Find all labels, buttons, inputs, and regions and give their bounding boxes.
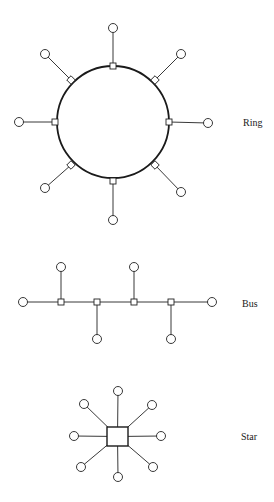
star-station-node-icon <box>148 401 157 410</box>
star-station-node-icon <box>70 432 79 441</box>
star-topology <box>70 387 166 482</box>
bus-end-node-icon <box>19 298 28 307</box>
star-hub-icon <box>107 427 128 446</box>
bus-label: Bus <box>242 298 258 309</box>
ring-tap-icon <box>110 178 116 184</box>
bus-tap-icon <box>58 299 64 305</box>
bus-end-node-icon <box>208 298 217 307</box>
star-station-node-icon <box>114 473 123 482</box>
ring-tap-icon <box>110 63 116 69</box>
network-topologies-diagram: Ring Bus Star <box>0 0 274 502</box>
star-station-node-icon <box>149 463 158 472</box>
star-station-node-icon <box>157 432 166 441</box>
star-station-node-icon <box>80 400 89 409</box>
ring-spoke-line <box>155 165 181 192</box>
ring-spoke-line <box>45 54 71 80</box>
ring-station-node-icon <box>109 216 118 225</box>
star-station-node-icon <box>114 387 123 396</box>
bus-station-node-icon <box>57 263 66 272</box>
bus-station-node-icon <box>93 335 102 344</box>
ring-station-node-icon <box>109 24 118 33</box>
ring-station-node-icon <box>41 184 50 193</box>
bus-station-node-icon <box>130 263 139 272</box>
ring-topology <box>15 24 213 225</box>
ring-station-node-icon <box>177 50 186 59</box>
ring-spoke-line <box>155 54 181 80</box>
ring-cable <box>57 66 169 178</box>
star-station-node-icon <box>77 463 86 472</box>
star-label: Star <box>241 431 258 442</box>
ring-station-node-icon <box>204 119 213 128</box>
ring-tap-icon <box>166 119 172 125</box>
ring-label: Ring <box>243 117 262 128</box>
bus-station-node-icon <box>167 335 176 344</box>
bus-tap-icon <box>168 299 174 305</box>
bus-topology <box>19 263 217 344</box>
ring-station-node-icon <box>15 118 24 127</box>
bus-tap-icon <box>94 299 100 305</box>
bus-tap-icon <box>131 299 137 305</box>
ring-station-node-icon <box>177 188 186 197</box>
ring-spoke-line <box>169 122 208 123</box>
ring-spoke-line <box>45 165 71 188</box>
ring-tap-icon <box>52 119 58 125</box>
ring-station-node-icon <box>41 50 50 59</box>
